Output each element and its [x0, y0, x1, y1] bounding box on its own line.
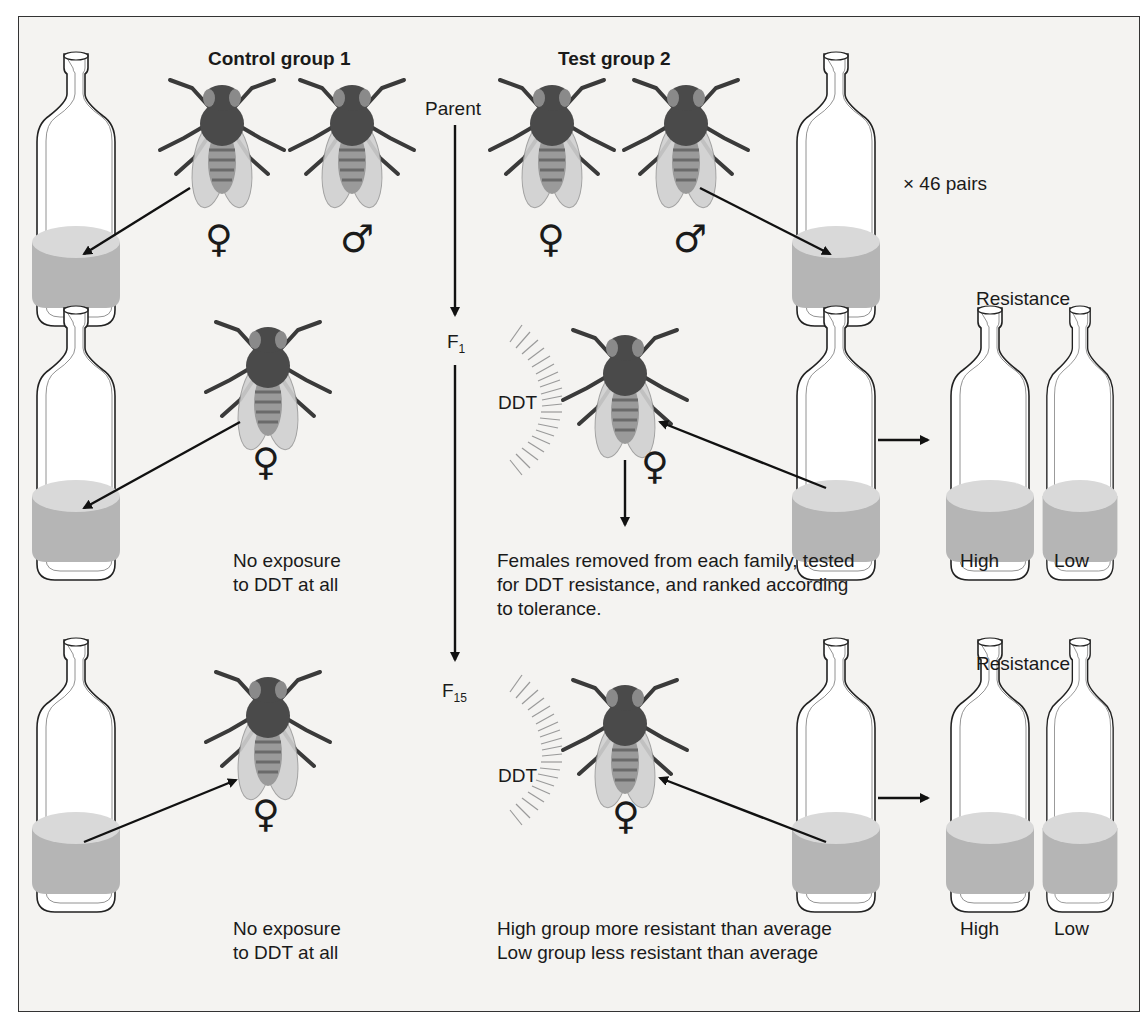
fly-test-f15: [563, 680, 687, 810]
ddt-label-f1: DDT: [498, 391, 537, 415]
female-symbol-test-f15: ♀: [612, 797, 640, 835]
generation-f15-label: F15: [442, 679, 467, 710]
ddt-label-f15: DDT: [498, 764, 537, 788]
female-symbol-control-parent: ♀: [205, 220, 233, 258]
generation-parent-label: Parent: [425, 97, 481, 121]
bottle-low-f15: [1043, 638, 1118, 912]
female-symbol-control-f1: ♀: [252, 443, 280, 481]
male-symbol-control-parent: ♂: [340, 220, 374, 258]
bottle-test-parent: [792, 52, 880, 326]
fly-control-male-parent: [290, 80, 414, 210]
control-group-title: Control group 1: [208, 47, 350, 71]
fly-test-female-parent: [490, 80, 614, 210]
fly-control-f1: [206, 322, 330, 452]
low-label-f15: Low: [1054, 917, 1089, 941]
fly-control-female-parent: [160, 80, 284, 210]
bottle-test-f1: [792, 306, 880, 580]
diagram-canvas: [0, 0, 1144, 1017]
control-f1-note: No exposure to DDT at all: [233, 549, 341, 597]
control-f1-note-line2: to DDT at all: [233, 573, 341, 597]
generation-f15-base: F: [442, 680, 454, 701]
bottle-control-f15: [32, 638, 120, 912]
control-f15-note-line2: to DDT at all: [233, 941, 341, 965]
generation-f15-sub: 15: [454, 691, 467, 705]
test-f1-note-line1: Females removed from each family, tested: [497, 549, 855, 573]
test-f15-note-line2: Low group less resistant than average: [497, 941, 832, 965]
test-f1-note-line2: for DDT resistance, and ranked according: [497, 573, 855, 597]
generation-f1-label: F1: [447, 330, 465, 361]
control-f15-note-line1: No exposure: [233, 917, 341, 941]
female-symbol-control-f15: ♀: [252, 795, 280, 833]
low-label-f1: Low: [1054, 549, 1089, 573]
male-symbol-test-parent: ♂: [673, 220, 707, 258]
resistance-label-f15: Resistance: [976, 652, 1070, 676]
generation-f1-sub: 1: [459, 342, 466, 356]
fly-test-male-parent: [624, 80, 748, 210]
test-f15-note: High group more resistant than average L…: [497, 917, 832, 965]
bottle-control-f1: [32, 306, 120, 580]
test-f15-note-line1: High group more resistant than average: [497, 917, 832, 941]
test-f1-note: Females removed from each family, tested…: [497, 549, 855, 621]
fly-test-f1: [563, 330, 687, 460]
fly-control-f15: [206, 672, 330, 802]
high-label-f1: High: [960, 549, 999, 573]
female-symbol-test-f1: ♀: [641, 447, 669, 485]
female-symbol-test-parent: ♀: [537, 220, 565, 258]
control-f1-note-line1: No exposure: [233, 549, 341, 573]
test-group-title: Test group 2: [558, 47, 671, 71]
ddt-spray-f15: [510, 675, 562, 825]
generation-f1-base: F: [447, 331, 459, 352]
bottle-high-f1: [946, 306, 1034, 580]
bottle-low-f1: [1043, 306, 1118, 580]
resistance-label-f1: Resistance: [976, 287, 1070, 311]
pairs-count-label: × 46 pairs: [903, 172, 987, 196]
bottle-control-parent: [32, 52, 120, 326]
bottle-test-f15: [792, 638, 880, 912]
high-label-f15: High: [960, 917, 999, 941]
bottle-high-f15: [946, 638, 1034, 912]
control-f15-note: No exposure to DDT at all: [233, 917, 341, 965]
test-f1-note-line3: to tolerance.: [497, 597, 855, 621]
